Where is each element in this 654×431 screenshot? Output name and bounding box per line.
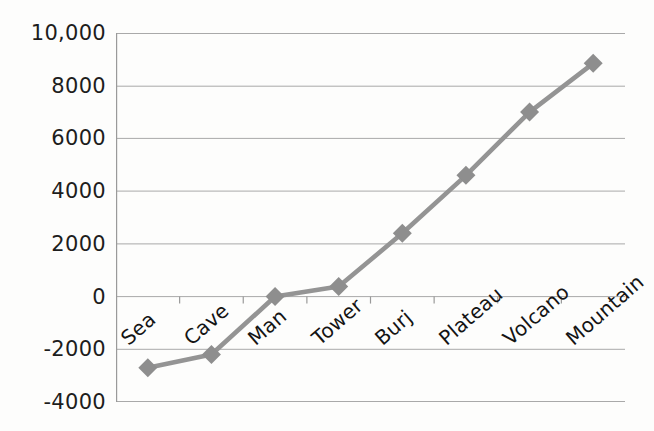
- y-axis-tick-label: 0: [6, 285, 106, 309]
- data-point-marker: [138, 358, 157, 377]
- y-axis-tick-label: 2000: [6, 232, 106, 256]
- y-axis-tick-label: -4000: [6, 390, 106, 414]
- gridlines: [116, 34, 625, 402]
- plot-svg: [116, 33, 625, 402]
- plot-area: [116, 33, 625, 402]
- y-axis-tick-label: 6000: [6, 126, 106, 150]
- y-axis-tick-label: 4000: [6, 179, 106, 203]
- y-axis-tick-label: -2000: [6, 337, 106, 361]
- y-axis-tick-label: 10,000: [6, 21, 106, 45]
- y-axis-tick-labels: 10,000 8000 6000 4000 2000 0 -2000 -4000: [0, 0, 106, 431]
- data-series-markers: [138, 54, 602, 377]
- y-axis-tick-label: 8000: [6, 74, 106, 98]
- x-axis-tick-marks: [180, 297, 562, 304]
- line-chart-figure: 10,000 8000 6000 4000 2000 0 -2000 -4000: [0, 0, 654, 431]
